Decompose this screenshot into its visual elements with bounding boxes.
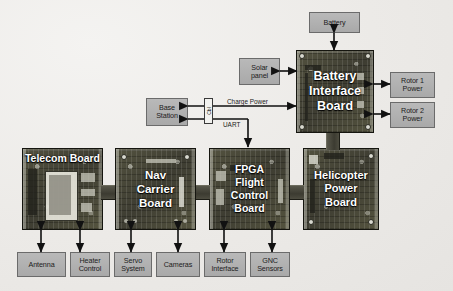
cable-connector-label: Cbl (206, 107, 212, 115)
cable-connector-chip[interactable]: Cbl (204, 98, 213, 124)
charge-power-wire-label: Charge Power (227, 98, 268, 105)
connection-arrows (0, 0, 453, 291)
block-diagram-canvas: Battery Solar panel Rotor 1 Power Rotor … (0, 0, 453, 291)
uart-wire-label: UART (223, 121, 240, 128)
